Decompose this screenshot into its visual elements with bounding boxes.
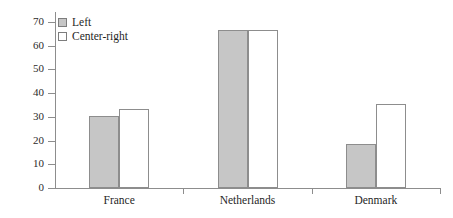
y-axis-tick (48, 46, 55, 47)
y-axis-tick (48, 164, 55, 165)
bar-denmark-left (346, 144, 376, 188)
y-axis-label: 20 (0, 135, 44, 146)
y-axis-label: 60 (0, 40, 44, 51)
bar-netherlands-center-right (248, 30, 278, 188)
legend-swatch-icon (58, 32, 67, 41)
bar-france-center-right (119, 109, 149, 188)
y-axis-tick (48, 93, 55, 94)
bar-netherlands-left (218, 30, 248, 188)
legend-item-left: Left (58, 16, 128, 29)
y-axis-label: 40 (0, 87, 44, 98)
y-axis-tick (48, 188, 55, 189)
x-axis-tick (183, 188, 184, 194)
y-axis-tick (48, 69, 55, 70)
legend-swatch-icon (58, 18, 67, 27)
x-axis-category-label: France (59, 194, 179, 206)
bar-chart: 010203040506070 FranceNetherlandsDenmark… (0, 0, 453, 218)
x-axis-tick (312, 188, 313, 194)
y-axis-tick (48, 141, 55, 142)
legend-label: Center-right (72, 31, 128, 43)
y-axis-label: 10 (0, 158, 44, 169)
x-axis-category-label: Netherlands (188, 194, 308, 206)
x-axis-line (55, 188, 440, 189)
bar-france-left (89, 116, 119, 188)
y-axis-label: 0 (0, 182, 44, 193)
legend-item-center-right: Center-right (58, 30, 128, 43)
x-axis-category-label: Denmark (316, 194, 436, 206)
y-axis-tick (48, 117, 55, 118)
bar-denmark-center-right (376, 104, 406, 188)
y-axis-label: 50 (0, 63, 44, 74)
y-axis-label: 30 (0, 111, 44, 122)
legend-label: Left (72, 17, 91, 29)
chart-legend: LeftCenter-right (58, 16, 128, 44)
y-axis-tick (48, 22, 55, 23)
y-axis-label: 70 (0, 16, 44, 27)
x-axis-tick (440, 188, 441, 194)
